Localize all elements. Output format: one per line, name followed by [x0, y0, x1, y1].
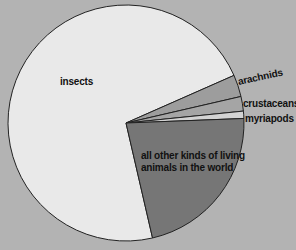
label-crustaceans: crustaceans [243, 98, 296, 109]
label-other-line1: all other kinds of living [141, 150, 245, 161]
pie-chart: insects arachnids crustaceans myriapods … [0, 0, 296, 250]
pie-chart-svg [0, 0, 296, 250]
label-insects: insects [60, 76, 93, 87]
label-other-line2: animals in the world [141, 162, 233, 173]
label-myriapods: myriapods [245, 113, 294, 124]
